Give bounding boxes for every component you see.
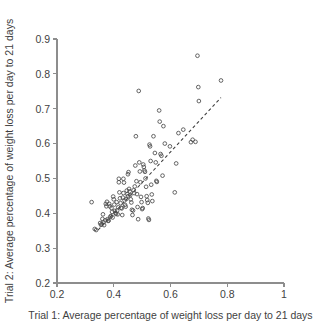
data-point bbox=[168, 145, 172, 149]
data-point bbox=[194, 140, 198, 144]
y-tick-label: 0.3 bbox=[35, 242, 50, 254]
data-point bbox=[118, 191, 122, 195]
data-point bbox=[152, 134, 156, 138]
data-point bbox=[219, 79, 223, 83]
data-point bbox=[177, 131, 181, 135]
data-point bbox=[144, 185, 148, 189]
x-axis-title: Trial 1: Average percentage of weight lo… bbox=[28, 309, 312, 321]
x-tick-label: 0.8 bbox=[220, 288, 235, 300]
data-point bbox=[122, 177, 126, 181]
y-tick-label: 0.2 bbox=[35, 277, 50, 289]
data-point bbox=[157, 109, 161, 113]
data-point bbox=[149, 183, 153, 187]
data-point bbox=[133, 185, 137, 189]
data-point bbox=[196, 85, 200, 89]
axis-labels: 0.20.30.40.50.60.70.80.90.20.40.60.81Tri… bbox=[3, 19, 313, 321]
data-point bbox=[154, 161, 158, 165]
data-point bbox=[133, 164, 137, 168]
data-point bbox=[158, 120, 162, 124]
data-point bbox=[135, 179, 139, 183]
data-point bbox=[131, 209, 135, 213]
y-tick-label: 0.4 bbox=[35, 207, 50, 219]
data-point bbox=[163, 142, 167, 146]
y-tick-label: 0.6 bbox=[35, 137, 50, 149]
data-point bbox=[145, 194, 149, 198]
data-point bbox=[122, 191, 126, 195]
x-tick-label: 0.6 bbox=[163, 288, 178, 300]
y-tick-label: 0.7 bbox=[35, 103, 50, 115]
data-point bbox=[122, 181, 126, 185]
y-tick-label: 0.8 bbox=[35, 68, 50, 80]
data-point bbox=[161, 174, 165, 178]
x-tick-label: 1 bbox=[281, 288, 287, 300]
data-point bbox=[162, 124, 166, 128]
plot-canvas: 0.20.30.40.50.60.70.80.90.20.40.60.81Tri… bbox=[0, 0, 318, 329]
data-point bbox=[138, 170, 142, 174]
data-point bbox=[136, 217, 140, 221]
data-point bbox=[137, 89, 141, 93]
data-point bbox=[149, 159, 153, 163]
data-point bbox=[90, 200, 94, 204]
x-tick-label: 0.4 bbox=[106, 288, 121, 300]
y-tick-label: 0.9 bbox=[35, 33, 50, 45]
x-tick-label: 0.2 bbox=[50, 288, 65, 300]
data-point bbox=[197, 99, 201, 103]
axis-lines bbox=[57, 39, 284, 283]
data-point bbox=[139, 180, 143, 184]
data-point bbox=[181, 128, 185, 132]
data-point bbox=[196, 54, 200, 58]
data-point bbox=[101, 212, 105, 216]
data-point bbox=[115, 200, 119, 204]
data-point bbox=[140, 200, 144, 204]
data-points bbox=[90, 54, 223, 232]
scatter-plot-figure: 0.20.30.40.50.60.70.80.90.20.40.60.81Tri… bbox=[0, 0, 318, 329]
data-point bbox=[137, 161, 141, 165]
data-point bbox=[150, 193, 154, 197]
data-point bbox=[139, 195, 143, 199]
data-point bbox=[153, 151, 157, 155]
data-point bbox=[173, 191, 177, 195]
y-tick-label: 0.5 bbox=[35, 172, 50, 184]
data-point bbox=[119, 201, 123, 205]
data-point bbox=[136, 205, 140, 209]
data-point bbox=[150, 199, 154, 203]
data-point bbox=[131, 213, 135, 217]
axes bbox=[53, 39, 284, 287]
data-point bbox=[120, 213, 124, 217]
y-axis-title: Trial 2: Average percentage of weight lo… bbox=[3, 19, 15, 303]
data-point bbox=[134, 134, 138, 138]
data-point bbox=[174, 162, 178, 166]
